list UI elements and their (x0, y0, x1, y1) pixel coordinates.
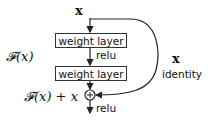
residual-function-label: 𝓕(x) (6, 49, 33, 65)
identity-label: identity (162, 68, 202, 80)
output-sum-label: 𝓕(x) + x (24, 89, 78, 105)
relu-output-label: relu (96, 102, 116, 114)
relu-middle-label: relu (96, 49, 116, 61)
input-label: x (75, 3, 83, 18)
shortcut-var-label: x (172, 51, 180, 66)
weight-layer-2: weight layer (55, 66, 127, 81)
weight-layer-1: weight layer (55, 33, 127, 48)
residual-block-diagram: x weight layer relu weight layer 𝓕(x) 𝓕(… (0, 0, 208, 120)
